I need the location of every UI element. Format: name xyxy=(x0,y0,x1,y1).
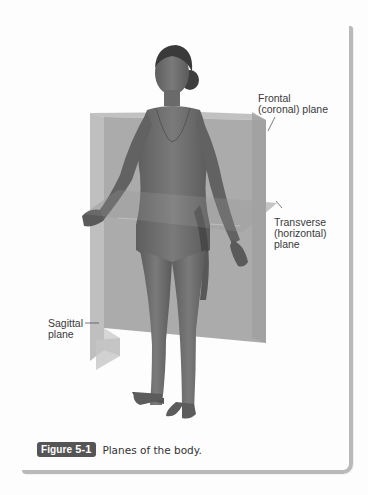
figure-badge-number: 5-1 xyxy=(75,443,91,455)
label-transverse-plane: Transverse (horizontal) plane xyxy=(274,217,327,250)
figure-badge-word: Figure xyxy=(41,444,72,455)
label-frontal-plane: Frontal (coronal) plane xyxy=(258,93,328,115)
label-sagittal-plane: Sagittal plane xyxy=(48,318,83,340)
figure-caption: Figure5-1 Planes of the body. xyxy=(37,442,202,457)
frontal-leader-line xyxy=(268,117,275,131)
figure-number-badge: Figure5-1 xyxy=(37,442,96,457)
textbook-page: Frontal (coronal) plane Transverse (hori… xyxy=(0,0,368,495)
caption-text: Planes of the body. xyxy=(102,444,201,456)
transverse-leader-line xyxy=(276,201,282,208)
